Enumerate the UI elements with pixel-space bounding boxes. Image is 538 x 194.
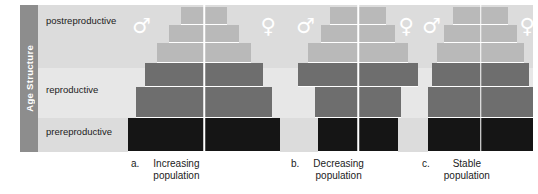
sex-divider-axis bbox=[480, 5, 482, 152]
caption-line-1: Stable bbox=[453, 158, 481, 169]
caption-line-2: population bbox=[316, 170, 362, 181]
sex-divider-axis bbox=[203, 5, 205, 152]
caption-letter: b. bbox=[291, 158, 299, 169]
caption-line-1: Increasing bbox=[153, 158, 199, 169]
age-structure-axis-label: Age Structure bbox=[24, 45, 35, 112]
caption-letter: c. bbox=[422, 158, 430, 169]
pyramid-increasing-population: ♂ ♀ bbox=[128, 5, 280, 152]
caption-increasing-population: a. Increasing population bbox=[131, 158, 200, 182]
caption-stable-population: c. Stable population bbox=[422, 158, 490, 182]
age-structure-figure-panel: Age Structure postreproductive reproduct… bbox=[20, 5, 533, 152]
sex-divider-axis bbox=[357, 5, 359, 152]
age-structure-axis-tab: Age Structure bbox=[20, 5, 38, 152]
band-label-postreproductive: postreproductive bbox=[46, 15, 116, 26]
pyramid-stable-population: ♂ ♀ bbox=[428, 5, 533, 152]
caption-line-2: population bbox=[153, 170, 199, 181]
caption-line-2: population bbox=[444, 170, 490, 181]
caption-line-1: Decreasing bbox=[313, 158, 364, 169]
caption-decreasing-population: b. Decreasing population bbox=[291, 158, 364, 182]
pyramid-decreasing-population: ♂ ♀ bbox=[298, 5, 418, 152]
caption-letter: a. bbox=[131, 158, 139, 169]
band-label-prereproductive: prereproductive bbox=[46, 126, 112, 137]
band-label-reproductive: reproductive bbox=[46, 84, 98, 95]
